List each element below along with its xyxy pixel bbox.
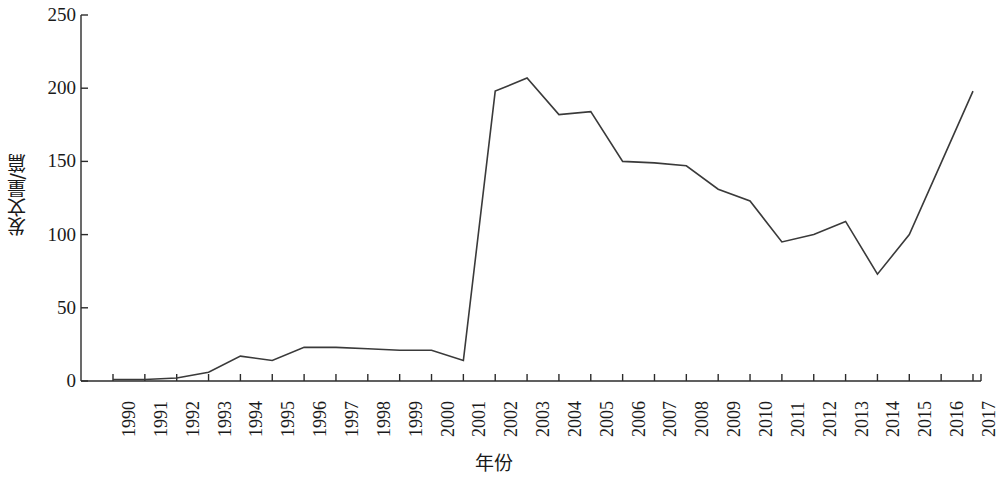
data-series-line (113, 78, 973, 380)
x-axis-title-text: 年份 (475, 452, 513, 474)
chart-tick-marks (81, 88, 973, 381)
x-axis-title: 年份 (0, 448, 988, 475)
chart-axes (81, 15, 981, 381)
